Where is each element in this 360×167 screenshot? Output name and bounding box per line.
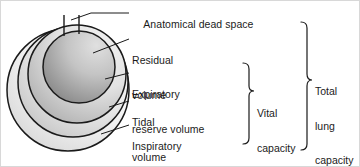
label-vital-capacity-line1: Vital	[257, 108, 296, 120]
label-inspiratory-reserve-volume: Inspiratory reserve volume	[132, 118, 204, 167]
label-vital-capacity: Vital capacity	[257, 85, 296, 167]
total-lung-capacity-brace	[301, 22, 312, 150]
lung-volumes-figure: Anatomical dead space Residual volume Ex…	[0, 0, 360, 167]
residual-volume-sphere	[43, 31, 115, 103]
vital-capacity-brace	[243, 63, 254, 144]
label-residual-volume-line1: Residual	[132, 55, 173, 67]
label-anatomical-dead-space-text: Anatomical dead space	[143, 18, 253, 30]
label-total-lung-capacity-line1: Total	[315, 86, 354, 98]
label-total-lung-capacity-line3: capacity	[315, 155, 354, 167]
label-total-lung-capacity: Total lung capacity	[315, 63, 354, 167]
label-total-lung-capacity-line2: lung	[315, 121, 354, 133]
label-vital-capacity-line2: capacity	[257, 143, 296, 155]
label-inspiratory-reserve-volume-line1: Inspiratory	[132, 141, 204, 153]
